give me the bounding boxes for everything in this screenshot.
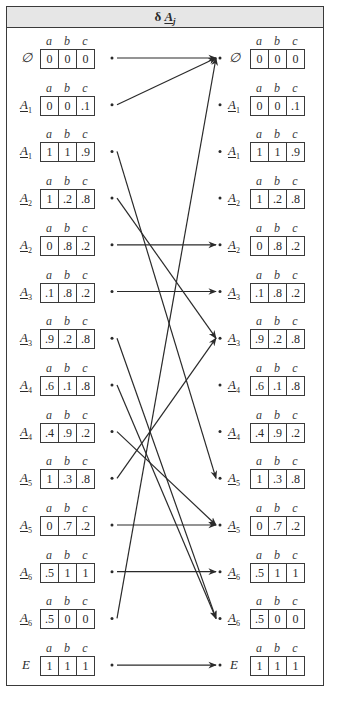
right-dot-A5 [219,477,222,480]
left-dot-E [111,664,114,667]
left-dot-A1c [111,150,114,153]
left-dot-A2 [111,197,114,200]
right-dot-A3 [219,290,222,293]
right-dot-empty [219,57,222,60]
left-dot-A4 [111,383,114,386]
left-dot-A3 [111,290,114,293]
left-dot-A2c [111,243,114,246]
arrow-A2-to-A3c [117,198,216,338]
right-dot-A6c [219,617,222,620]
right-dot-A1c [219,150,222,153]
right-dot-A1 [219,103,222,106]
left-dot-A6c [111,617,114,620]
arrow-A4-to-A6c [117,385,216,619]
right-dot-A6 [219,570,222,573]
left-dot-A5c [111,524,114,527]
left-dot-A3c [111,337,114,340]
arrow-A1-to-empty [117,58,216,105]
arrow-A5-to-A3c [117,338,216,478]
right-dot-A2c [219,243,222,246]
left-dot-empty [111,57,114,60]
right-dot-A3c [219,337,222,340]
right-dot-A5c [219,524,222,527]
right-dot-E [219,664,222,667]
mapping-arrows [0,0,337,703]
arrow-A1c-to-A5 [117,151,216,478]
arrow-A4c-to-A5c [117,432,216,525]
right-dot-A2 [219,197,222,200]
left-dot-A1 [111,103,114,106]
arrow-A6c-to-empty [117,58,216,618]
left-dot-A6 [111,570,114,573]
left-dot-A5 [111,477,114,480]
right-dot-A4 [219,383,222,386]
right-dot-A4c [219,430,222,433]
left-dot-A4c [111,430,114,433]
